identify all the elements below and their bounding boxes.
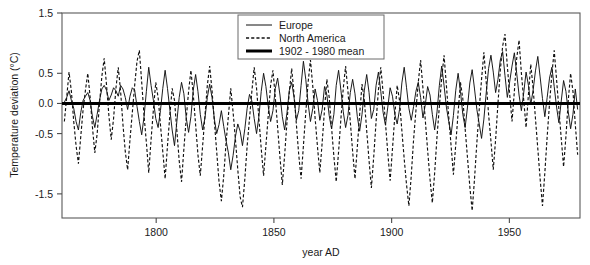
- series-layer: [62, 34, 580, 211]
- chart-legend: Europe North America 1902 - 1980 mean: [238, 15, 384, 59]
- x-tick-label: 1950: [498, 226, 522, 238]
- y-tick-label: 0.5: [38, 67, 53, 79]
- y-tick-label: -0.5: [35, 128, 53, 140]
- x-tick-label: 1900: [380, 226, 404, 238]
- chart-figure: 1.50.50.0-0.5-1.5 1800185019001950 Tempe…: [0, 0, 590, 265]
- legend-label-europe: Europe: [279, 19, 313, 31]
- y-axis-title: Temperature deviation (°C): [8, 52, 20, 178]
- y-axis-ticks: 1.50.50.0-0.5-1.5: [35, 7, 62, 200]
- y-tick-label: 0.0: [38, 97, 53, 109]
- x-axis-ticks: 1800185019001950: [145, 218, 522, 238]
- x-axis-title: year AD: [302, 246, 340, 258]
- chart-svg: 1.50.50.0-0.5-1.5 1800185019001950 Tempe…: [0, 0, 590, 265]
- x-tick-label: 1850: [262, 226, 286, 238]
- legend-label-mean: 1902 - 1980 mean: [279, 45, 364, 57]
- y-tick-label: 1.5: [38, 7, 53, 19]
- y-tick-label: -1.5: [35, 188, 53, 200]
- legend-label-north-america: North America: [279, 32, 346, 44]
- x-tick-label: 1800: [145, 226, 169, 238]
